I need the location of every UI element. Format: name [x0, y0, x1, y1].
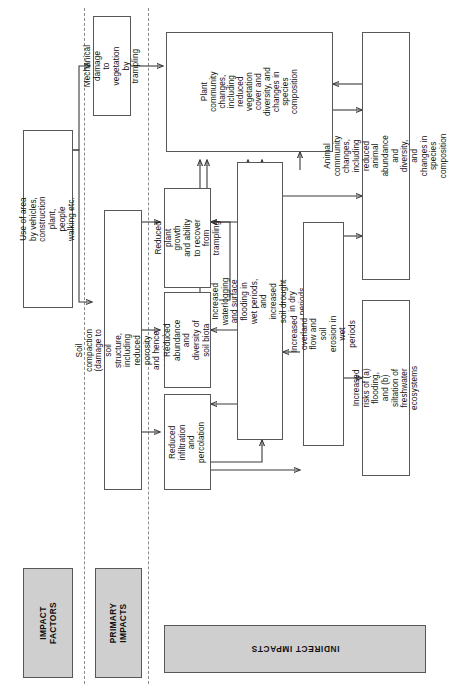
- band-primary-impacts-label: PRIMARY IMPACTS: [108, 603, 128, 643]
- node-reduced-plant-growth-label: Reduced plant growth and ability to reco…: [154, 215, 222, 260]
- node-plant-community-label: Plant community changes, including reduc…: [200, 67, 299, 116]
- band-impact-factors: IMPACT FACTORS: [23, 568, 73, 678]
- node-mechanical-damage-label: Mechanical damage to vegetation by tramp…: [83, 45, 141, 87]
- node-reduced-soil-biota-label: Reduced abundance and diversity of soil …: [163, 317, 211, 362]
- band-primary-impacts: PRIMARY IMPACTS: [95, 568, 142, 678]
- node-plant-community: Plant community changes, including reduc…: [166, 32, 333, 152]
- node-soil-compaction: Soil compaction (damage to soil structur…: [104, 210, 142, 490]
- band-impact-factors-label: IMPACT FACTORS: [38, 602, 58, 644]
- node-reduced-infiltration: Reduced infiltration and percolation: [164, 394, 211, 490]
- node-reduced-soil-biota: Reduced abundance and diversity of soil …: [164, 292, 211, 388]
- node-overland-flow: Increased overland flow and soil erosion…: [303, 222, 344, 446]
- node-soil-compaction-label: Soil compaction (damage to soil structur…: [75, 329, 172, 372]
- band-indirect-impacts-label: INDIRECT IMPACTS: [251, 644, 340, 654]
- node-waterlogging: Increased waterlogging and surface flood…: [237, 162, 283, 440]
- node-reduced-infiltration-label: Reduced infiltration and percolation: [168, 420, 207, 465]
- node-animal-community: Animal community changes, including redu…: [362, 32, 410, 280]
- band-indirect-impacts: INDIRECT IMPACTS: [164, 625, 426, 673]
- node-flood-siltation: Increased risks of (a) flooding, and (b)…: [362, 300, 410, 476]
- node-flood-siltation-label: Increased risks of (a) flooding, and (b)…: [352, 365, 420, 411]
- node-animal-community-label: Animal community changes, including redu…: [323, 133, 449, 179]
- node-reduced-plant-growth: Reduced plant growth and ability to reco…: [164, 188, 211, 288]
- node-use-of-area-label: Use of area by vehicles, construction pl…: [19, 195, 77, 243]
- node-mechanical-damage: Mechanical damage to vegetation by tramp…: [93, 16, 131, 116]
- node-overland-flow-label: Increased overland flow and soil erosion…: [290, 314, 358, 353]
- node-use-of-area: Use of area by vehicles, construction pl…: [23, 130, 73, 308]
